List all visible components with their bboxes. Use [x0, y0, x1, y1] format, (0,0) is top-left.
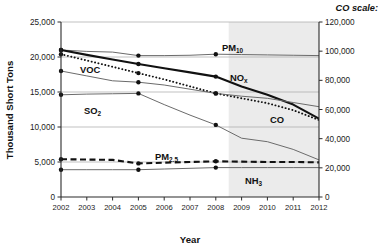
data-point-marker: [136, 161, 140, 165]
svg-text:40,000: 40,000: [325, 135, 350, 144]
svg-text:10,000: 10,000: [30, 123, 55, 132]
svg-text:2003: 2003: [78, 203, 95, 212]
data-point-marker: [214, 52, 218, 56]
data-point-marker: [136, 62, 140, 66]
svg-text:2005: 2005: [130, 203, 147, 212]
svg-text:15,000: 15,000: [30, 88, 55, 97]
chart-container: 25,00020,00015,00010,0005,0000 120,00010…: [0, 0, 384, 250]
series-label-co: CO: [270, 114, 284, 125]
svg-text:2009: 2009: [233, 203, 250, 212]
svg-text:20,000: 20,000: [325, 164, 350, 173]
svg-text:0: 0: [325, 193, 330, 202]
svg-text:25,000: 25,000: [30, 18, 55, 27]
svg-text:60,000: 60,000: [325, 106, 350, 115]
data-point-marker: [136, 80, 140, 84]
svg-text:100,000: 100,000: [325, 47, 355, 56]
data-point-marker: [214, 159, 218, 163]
svg-text:2012: 2012: [311, 203, 328, 212]
svg-text:0: 0: [50, 193, 55, 202]
svg-text:120,000: 120,000: [325, 18, 355, 27]
data-point-marker: [214, 91, 218, 95]
svg-text:5,000: 5,000: [35, 158, 56, 167]
right-scale-header: CO scale:: [336, 3, 378, 13]
series-label-so2: SO2: [84, 105, 102, 117]
line-chart: 25,00020,00015,00010,0005,0000 120,00010…: [0, 0, 384, 250]
data-point-marker: [136, 53, 140, 57]
svg-text:80,000: 80,000: [325, 76, 350, 85]
series-label-pm25: PM2.5: [155, 151, 178, 163]
x-axis-ticks: 2002200320042005200620072008200920102011…: [53, 197, 328, 212]
data-point-marker: [136, 71, 140, 75]
data-point-marker: [214, 123, 218, 127]
y-axis-right-ticks: 120,000100,00080,00060,00040,00020,0000: [319, 18, 355, 202]
x-axis-title: Year: [180, 234, 201, 245]
svg-text:2004: 2004: [104, 203, 121, 212]
y-axis-left-ticks: 25,00020,00015,00010,0005,0000: [30, 18, 61, 202]
svg-text:2010: 2010: [259, 203, 276, 212]
data-point-marker: [136, 168, 140, 172]
y-axis-left-title: Thousand Short Tons: [4, 61, 15, 159]
data-point-marker: [136, 91, 140, 95]
svg-text:20,000: 20,000: [30, 53, 55, 62]
series-label-voc: VOC: [80, 64, 101, 75]
svg-text:2008: 2008: [207, 203, 224, 212]
svg-text:2002: 2002: [53, 203, 70, 212]
svg-text:2007: 2007: [182, 203, 199, 212]
data-point-marker: [214, 74, 218, 78]
data-point-marker: [214, 165, 218, 169]
svg-text:2011: 2011: [285, 203, 301, 212]
svg-text:2006: 2006: [156, 203, 173, 212]
